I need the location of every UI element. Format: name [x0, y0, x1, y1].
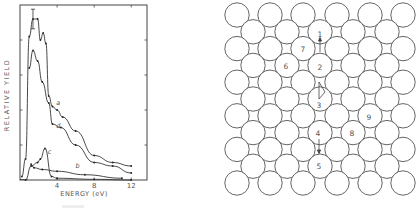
y-axis-label: RELATIVE YIELD: [3, 59, 11, 131]
data-point: [130, 172, 132, 174]
arrow-2-to-1: [319, 38, 322, 53]
data-point: [21, 176, 23, 178]
data-point: [37, 162, 39, 164]
x-tick-label: 12: [127, 182, 136, 190]
data-point: [130, 165, 132, 167]
atom: [391, 171, 415, 195]
data-point: [75, 144, 77, 146]
data-point: [32, 50, 34, 52]
data-point: [56, 170, 58, 172]
data-point: [52, 123, 54, 125]
data-point: [30, 163, 32, 165]
site-label-2: 2: [318, 63, 323, 72]
data-point: [28, 36, 30, 38]
site-label-4: 4: [316, 129, 321, 138]
series-label-a: a: [56, 99, 60, 107]
atom: [358, 171, 382, 195]
data-point: [93, 162, 95, 164]
atom: [225, 171, 249, 195]
data-point: [112, 165, 114, 167]
site-label-8: 8: [350, 129, 355, 138]
data-point: [56, 177, 58, 179]
data-point: [62, 116, 64, 118]
caption-smudge: [62, 205, 84, 208]
data-point: [44, 148, 46, 150]
data-point: [39, 158, 41, 160]
data-point: [37, 18, 39, 20]
data-point: [33, 167, 35, 169]
data-point: [48, 102, 50, 104]
data-point: [75, 130, 77, 132]
atom: [325, 171, 349, 195]
data-point: [121, 177, 123, 179]
site-label-7: 7: [301, 45, 306, 54]
data-point: [93, 178, 95, 180]
relative-yield-chart: 4812 adcb ENERGY (eV) RELATIVE YIELD: [0, 0, 160, 214]
series-line-a: [22, 19, 131, 177]
x-tick-label: 8: [92, 182, 96, 190]
site-label-3: 3: [317, 101, 322, 110]
data-point: [84, 174, 86, 176]
series-a: a: [21, 9, 132, 177]
data-point: [51, 176, 53, 178]
data-point: [25, 158, 27, 160]
data-point: [112, 162, 114, 164]
data-point: [93, 155, 95, 157]
site-label-9: 9: [367, 113, 372, 122]
data-point: [37, 60, 39, 62]
data-point: [45, 43, 47, 45]
data-point: [41, 81, 43, 83]
atom-lattice-diagram: 123456789: [215, 0, 419, 214]
series-label-b: b: [76, 162, 80, 170]
data-point: [28, 67, 30, 69]
data-point: [56, 109, 58, 111]
x-tick-label: 4: [55, 182, 60, 190]
data-point: [42, 32, 44, 34]
data-point: [39, 39, 41, 41]
data-point: [48, 95, 50, 97]
atom: [291, 171, 315, 195]
data-point: [130, 179, 132, 181]
series-b: b: [30, 162, 123, 179]
atom: [258, 171, 282, 195]
site-label-6: 6: [284, 62, 289, 71]
x-axis-label: ENERGY (eV): [60, 190, 107, 198]
series-line-d: [29, 51, 131, 174]
data-point: [52, 106, 54, 108]
series-label-c: c: [48, 148, 52, 156]
data-point: [41, 169, 43, 171]
series-d: d: [28, 50, 132, 174]
site-label-5: 5: [317, 162, 322, 171]
